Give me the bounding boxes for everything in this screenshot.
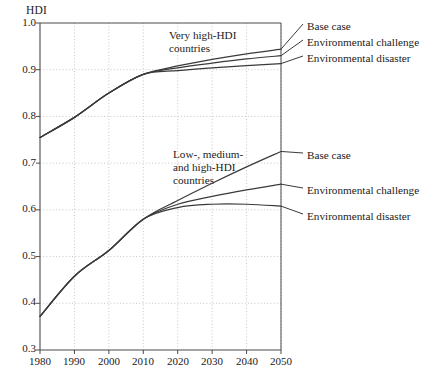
leader-line-g0-s1	[281, 40, 303, 56]
leader-line-g1-s2	[281, 206, 303, 214]
leader-line-g1-s1	[281, 184, 303, 188]
series-line-g0-s1	[40, 56, 281, 138]
leader-line-g0-s2	[281, 56, 303, 64]
series-line-g1-s0	[40, 151, 281, 316]
leader-line-g1-s0	[281, 151, 303, 153]
chart-figure: HDI 1.0 0.9 0.8 0.7 0.6 0.5 0.4 0.3 1980…	[0, 0, 430, 388]
series-line-g0-s2	[40, 64, 281, 138]
plot-canvas	[0, 0, 430, 388]
series-line-g1-s2	[40, 204, 281, 316]
series-line-g0-s0	[40, 49, 281, 137]
leader-line-g0-s0	[281, 24, 303, 49]
